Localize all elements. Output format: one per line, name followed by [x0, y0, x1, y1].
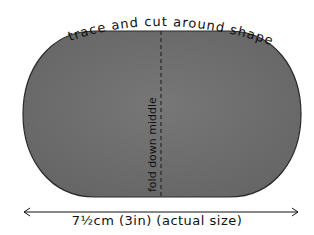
dimension-label: 7½cm (3in) (actual size)	[0, 213, 314, 228]
diagram-canvas: trace and cut around shape fold down mid…	[0, 0, 314, 235]
oval-shape	[23, 31, 301, 197]
fold-label: fold down middle	[146, 97, 159, 192]
